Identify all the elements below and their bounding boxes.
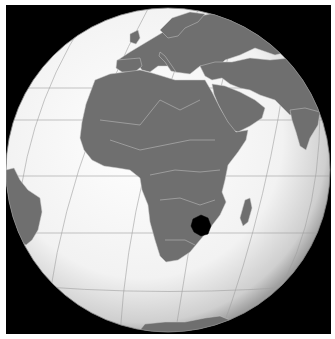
map-frame [6,5,331,334]
globe-map [6,5,331,334]
